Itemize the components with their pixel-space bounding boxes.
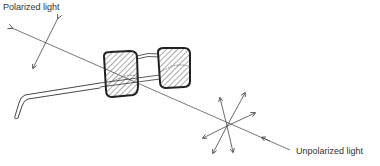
light-ray [12, 28, 290, 150]
left-lens [104, 51, 138, 97]
glasses-temple [15, 83, 100, 119]
polarized-arrow-icon [33, 18, 58, 68]
unpolarized-arrows-icon [203, 93, 255, 153]
right-lens [158, 48, 190, 88]
polarization-diagram [0, 0, 380, 166]
